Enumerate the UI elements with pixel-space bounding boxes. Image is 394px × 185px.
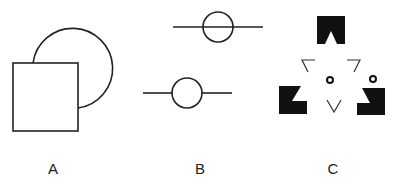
bottom-circle (172, 78, 202, 108)
right-ring (370, 76, 376, 82)
panel-a (13, 28, 113, 131)
panel-b (143, 12, 263, 108)
bottom-left-notched-block (279, 86, 307, 114)
upper-left-corner-lines (302, 60, 315, 72)
center-ring (327, 77, 333, 83)
panel-c (279, 16, 385, 115)
panel-label-b: B (190, 160, 210, 177)
bottom-v-lines (327, 100, 341, 112)
panel-label-a: A (43, 160, 63, 177)
top-notched-block (317, 16, 345, 44)
occluding-square (13, 63, 78, 131)
upper-right-corner-lines (347, 60, 360, 72)
illusion-figure (0, 0, 394, 185)
bottom-right-notched-block (357, 88, 385, 115)
panel-label-c: C (323, 160, 343, 177)
